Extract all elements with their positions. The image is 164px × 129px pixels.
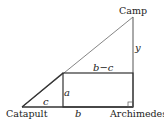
archimedes-label: Archimedes [109, 108, 164, 119]
var-y-label: y [134, 42, 141, 53]
var-c-label: c [43, 96, 49, 107]
right-angle-marker [128, 102, 133, 107]
var-b-label: b [75, 108, 81, 119]
triangle-diagram: Camp Catapult Archimedes y b−c a c b [0, 0, 164, 129]
var-a-label: a [64, 87, 70, 98]
var-b-minus-c-label: b−c [93, 62, 114, 73]
camp-label: Camp [119, 5, 147, 16]
catapult-label: Catapult [6, 108, 48, 119]
rectangle [63, 73, 133, 107]
